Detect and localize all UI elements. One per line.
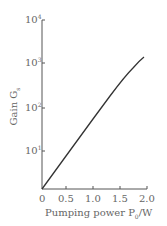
- y-axis-label: Gain Gs: [8, 88, 21, 126]
- ytick-10e2: 102: [25, 101, 42, 113]
- xtick-1.0: 1.0: [85, 193, 101, 204]
- xtick-0.5: 0.5: [58, 193, 74, 204]
- ytick-10e4: 104: [25, 13, 42, 25]
- ytick-10e1: 101: [25, 144, 42, 156]
- xtick-1.5: 1.5: [112, 193, 128, 204]
- x-axis-label: Pumping power P0/W: [45, 207, 152, 220]
- ytick-10e3: 103: [25, 56, 42, 68]
- xtick-2.0: 2.0: [139, 193, 155, 204]
- xtick-0: 0: [39, 193, 45, 204]
- gain-curve: [42, 57, 144, 189]
